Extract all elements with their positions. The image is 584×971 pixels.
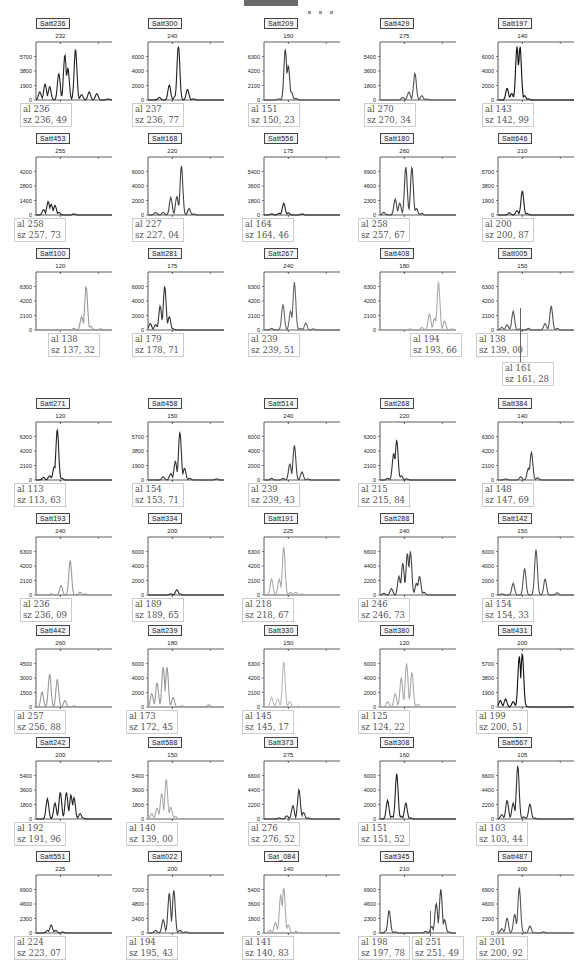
allele-value: al 154 — [485, 599, 529, 610]
marker-title: Satt180 — [380, 133, 414, 144]
allele-call-box: al 198sz 197, 78 — [358, 936, 410, 960]
marker-title: Satt168 — [148, 133, 182, 144]
y-tick-label: 2200 — [364, 578, 376, 584]
peak-trace — [36, 430, 112, 480]
panel-satt268: Satt2682200210042006300al 215sz 215, 84 — [352, 398, 462, 510]
panel-satt168: Satt1682200200040006000al 227sz 227, 04 — [120, 133, 230, 245]
trace-plot: 2400200040006000 — [236, 410, 344, 488]
y-tick-label: 6000 — [132, 169, 144, 175]
peak-trace — [36, 50, 112, 100]
reference-size-label: 150 — [283, 33, 294, 39]
y-tick-label: 6000 — [248, 434, 260, 440]
y-tick-label: 6000 — [482, 54, 494, 60]
y-tick-label: 4000 — [482, 68, 494, 74]
y-tick-label: 2400 — [132, 916, 144, 922]
allele-value: al 125 — [361, 711, 405, 722]
y-tick-label: 6300 — [364, 434, 376, 440]
trace-plot: 2400210042006300 — [8, 525, 116, 603]
allele-value: al 179 — [135, 334, 179, 345]
y-tick-label: 3600 — [364, 68, 376, 74]
peak-trace — [148, 47, 224, 100]
marker-title: Satt281 — [148, 248, 182, 259]
marker-title: Satt288 — [380, 513, 414, 524]
y-tick-label: 4000 — [132, 563, 144, 569]
panel-satt300: Satt3002400200040006000al 237sz 236, 77 — [120, 18, 230, 130]
y-tick-label: 2100 — [364, 463, 376, 469]
marker-title: Satt209 — [264, 18, 298, 29]
marker-title: Satt334 — [148, 513, 182, 524]
panel-satt442: Satt4422600150030004500al 257sz 256, 88 — [8, 625, 118, 737]
allele-call-box: al 141sz 140, 83 — [242, 936, 294, 960]
y-tick-label: 2300 — [364, 916, 376, 922]
marker-title: Satt100 — [36, 248, 70, 259]
y-tick-label: 4200 — [248, 675, 260, 681]
marker-title: Satt330 — [264, 625, 298, 636]
trace-plot: 2550140028004200 — [8, 145, 116, 223]
reference-size-label: 275 — [283, 752, 294, 758]
y-tick-label: 5400 — [364, 54, 376, 60]
allele-call-box: al 194sz 195, 43 — [126, 936, 178, 960]
allele-value: al 151 — [251, 104, 295, 115]
reference-size-label: 210 — [399, 866, 410, 872]
y-tick-label: 2000 — [248, 463, 260, 469]
allele-value: al 189 — [135, 599, 179, 610]
panel-satt330: Satt3301500210042006300al 145sz 145, 17 — [236, 625, 346, 737]
allele-value: al 200 — [485, 219, 529, 230]
y-tick-label: 2100 — [248, 83, 260, 89]
size-value: sz 150, 23 — [251, 115, 295, 126]
marker-title: Satt514 — [264, 398, 298, 409]
allele-value: al 148 — [485, 484, 529, 495]
allele-call-box: al 257sz 256, 88 — [14, 710, 66, 734]
y-tick-label: 6300 — [20, 434, 32, 440]
size-value: sz 195, 43 — [129, 948, 173, 959]
size-value: sz 140, 83 — [245, 948, 289, 959]
allele-value: al 199 — [479, 711, 523, 722]
allele-call-box: al 189sz 189, 65 — [132, 598, 184, 622]
marker-title: Satt239 — [148, 625, 182, 636]
reference-size-label: 160 — [399, 752, 410, 758]
marker-title: Satt458 — [148, 398, 182, 409]
y-tick-label: 4200 — [20, 298, 32, 304]
reference-size-label: 140 — [283, 866, 294, 872]
panel-satt005: Satt0051500210042006300al 138sz 139, 00a… — [470, 248, 580, 360]
y-tick-label: 4000 — [364, 675, 376, 681]
size-value: sz 223, 07 — [17, 948, 61, 959]
allele-call-box: al 258sz 257, 67 — [358, 218, 410, 242]
allele-value: al 201 — [479, 937, 523, 948]
reference-size-label: 120 — [55, 263, 66, 269]
y-tick-label: 4600 — [364, 183, 376, 189]
size-value: sz 113, 63 — [17, 495, 61, 506]
reference-size-label: 240 — [399, 528, 410, 534]
marker-title: Satt022 — [148, 851, 182, 862]
trace-plot: 1500200040006000 — [470, 525, 578, 603]
y-tick-label: 2000 — [132, 578, 144, 584]
y-tick-label: 4000 — [132, 675, 144, 681]
y-tick-label: 1400 — [20, 198, 32, 204]
marker-title: Satt268 — [380, 398, 414, 409]
y-tick-label: 1900 — [20, 83, 32, 89]
y-tick-label: 4200 — [248, 68, 260, 74]
y-tick-label: 4400 — [364, 563, 376, 569]
peak-trace — [498, 191, 574, 215]
size-value: sz 103, 44 — [479, 834, 523, 845]
peak-trace — [264, 445, 340, 480]
allele-value: al 246 — [361, 599, 405, 610]
reference-size-label: 150 — [283, 640, 294, 646]
panel-satt429: Satt4292750180036005400al 270sz 270, 34 — [352, 18, 462, 130]
allele-value: al 143 — [485, 104, 529, 115]
reference-size-label: 140 — [517, 33, 528, 39]
peak-trace — [264, 282, 340, 330]
marker-title: Satt453 — [36, 133, 70, 144]
y-tick-label: 6600 — [482, 773, 494, 779]
allele-value: al 251 — [415, 937, 459, 948]
peak-trace — [380, 283, 456, 330]
allele-call-box: al 199sz 200, 51 — [476, 710, 528, 734]
allele-call-box: al 192sz 191, 96 — [14, 822, 66, 846]
trace-plot: 2250230046006900 — [8, 863, 116, 941]
allele-call-box: al 145sz 145, 17 — [242, 710, 294, 734]
size-value: sz 142, 99 — [485, 115, 529, 126]
peak-trace — [36, 925, 112, 933]
peak-trace — [36, 792, 112, 819]
panel-satt197: Satt1971400200040006000al 143sz 142, 99 — [470, 18, 580, 130]
panel-satt380: Satt3801200200040006000al 125sz 124, 22 — [352, 625, 462, 737]
